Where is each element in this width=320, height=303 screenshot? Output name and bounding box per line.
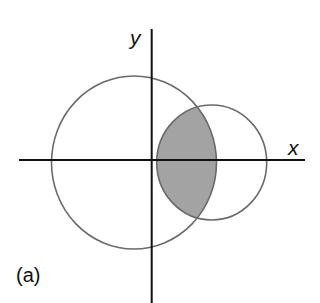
y-axis-label: y [128,26,142,49]
venn-diagram-figure: y x (a) [0,0,320,303]
x-axis-label: x [287,136,300,159]
panel-label: (a) [16,264,40,286]
